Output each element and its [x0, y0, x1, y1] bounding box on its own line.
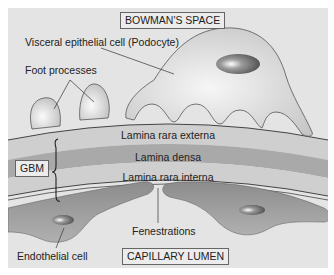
endothelial-nucleus-left: [52, 215, 74, 225]
lamina-rara-interna-label: Lamina rara interna: [122, 172, 213, 183]
capillary-lumen-label: CAPILLARY LUMEN: [122, 248, 229, 265]
bowmans-space-label: BOWMAN'S SPACE: [120, 12, 225, 29]
foot-process-2: [80, 84, 110, 120]
podocyte-leader: [101, 48, 174, 74]
fenestrations-label: Fenestrations: [132, 226, 196, 237]
endothelial-cell-label: Endothelial cell: [17, 251, 88, 262]
lamina-densa-label: Lamina densa: [135, 152, 201, 163]
endothelial-nucleus-right: [239, 205, 265, 215]
foot-process-1: [31, 98, 61, 129]
lamina-rara-externa-label: Lamina rara externa: [121, 130, 215, 141]
foot-leader-1: [54, 80, 70, 109]
foot-processes-label: Foot processes: [25, 65, 97, 76]
podocyte-label: Visceral epithelial cell (Podocyte): [25, 37, 179, 48]
gbm-label: GBM: [15, 160, 49, 177]
glomerular-filtration-barrier-diagram: BOWMAN'S SPACE Visceral epithelial cell …: [8, 8, 328, 268]
podocyte-nucleus: [216, 54, 260, 74]
